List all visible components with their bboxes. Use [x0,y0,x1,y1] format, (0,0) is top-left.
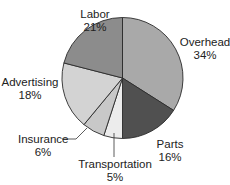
label-labor-pct: 21% [70,21,120,34]
label-parts-name: Parts [150,138,190,151]
label-overhead-name: Overhead [175,36,230,49]
pie-slices [62,18,183,139]
label-overhead-pct: 34% [175,49,230,62]
label-parts-pct: 16% [150,151,190,164]
label-insurance-name: Insurance [18,133,68,146]
label-advertising-name: Advertising [0,76,60,89]
label-advertising: Advertising 18% [0,76,60,102]
label-labor: Labor 21% [70,8,120,34]
label-advertising-pct: 18% [0,89,60,102]
label-labor-name: Labor [70,8,120,21]
label-transportation: Transportation 5% [75,158,155,184]
label-transportation-pct: 5% [75,171,155,184]
label-overhead: Overhead 34% [175,36,230,62]
label-parts: Parts 16% [150,138,190,164]
label-insurance: Insurance 6% [18,133,68,159]
label-insurance-pct: 6% [18,146,68,159]
label-transportation-name: Transportation [75,158,155,171]
